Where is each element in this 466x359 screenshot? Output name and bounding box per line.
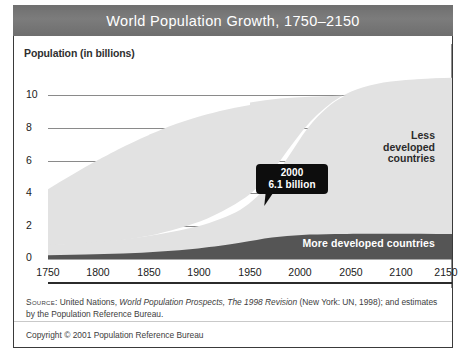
y-axis-title: Population (in billions) <box>24 47 135 59</box>
y-tick-0: 0 <box>26 251 32 263</box>
copyright-note: Copyright © 2001 Population Reference Bu… <box>26 330 204 340</box>
x-tick-1900: 1900 <box>187 266 210 278</box>
callout-pointer-icon <box>264 192 273 206</box>
less-developed-label: Less developed countries <box>383 130 435 165</box>
y-tick-10: 10 <box>26 88 38 100</box>
x-tick-1950: 1950 <box>238 266 261 278</box>
chart-panel: Population (in billions) <box>20 44 452 288</box>
source-note: Source: United Nations, World Population… <box>26 296 440 320</box>
y-tick-4: 4 <box>26 186 32 198</box>
x-tick-2050: 2050 <box>339 266 362 278</box>
x-tick-2100: 2100 <box>389 266 412 278</box>
x-tick-1800: 1800 <box>86 266 109 278</box>
x-tick-2000: 2000 <box>288 266 311 278</box>
x-tick-1850: 1850 <box>137 266 160 278</box>
y-tick-6: 6 <box>26 154 32 166</box>
x-tick-2150: 2150 <box>434 266 457 278</box>
x-tick-1750: 1750 <box>36 266 59 278</box>
y-tick-2: 2 <box>26 219 32 231</box>
less-developed-label-line3: countries <box>383 153 435 165</box>
page-title: World Population Growth, 1750–2150 <box>106 13 359 29</box>
source-text-1: : United Nations, <box>55 297 119 307</box>
callout-value: 6.1 billion <box>268 179 315 191</box>
chart-title-bar: World Population Growth, 1750–2150 <box>13 5 453 36</box>
more-developed-label: More developed countries <box>302 237 435 249</box>
less-developed-label-line1: Less <box>383 130 435 142</box>
source-italic-title: World Population Prospects, The 1998 Rev… <box>119 297 297 307</box>
callout-year: 2000 <box>281 167 304 179</box>
footer-divider <box>14 321 452 322</box>
x-axis-line <box>48 282 452 284</box>
callout-2000: 2000 6.1 billion <box>256 164 328 194</box>
chart-card: World Population Growth, 1750–2150 Popul… <box>0 0 466 359</box>
source-label: Source <box>26 297 55 307</box>
y-tick-8: 8 <box>26 121 32 133</box>
